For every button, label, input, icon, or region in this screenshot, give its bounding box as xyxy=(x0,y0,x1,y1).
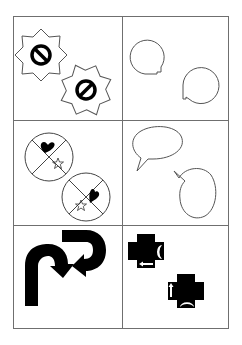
cell-r1-c1[interactable] xyxy=(14,17,121,120)
cell-r3-c2[interactable] xyxy=(123,226,230,329)
cell-r2-c2[interactable] xyxy=(123,121,230,224)
figure-grid xyxy=(13,16,229,329)
round-speech-bubble-icon xyxy=(123,17,230,120)
u-turn-arrow-icon xyxy=(14,226,121,329)
prohibition-starburst-icon xyxy=(14,17,121,120)
oval-speech-bubble-icon xyxy=(123,121,230,224)
cross-crescent-arrow-icon xyxy=(123,226,230,329)
cell-r2-c1[interactable] xyxy=(14,121,121,224)
cell-r3-c1[interactable] xyxy=(14,226,121,329)
quadrant-circle-heart-star-icon xyxy=(14,121,121,224)
cell-r1-c2[interactable] xyxy=(123,17,230,120)
